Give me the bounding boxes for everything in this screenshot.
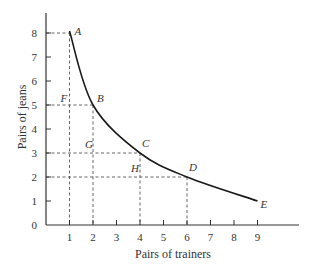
x-ticks: 123456789 <box>67 220 261 243</box>
y-tick-label: 1 <box>32 195 38 207</box>
y-tick-label: 4 <box>32 123 38 135</box>
point-label-b: B <box>97 92 104 104</box>
dashed-guide-lines <box>46 33 187 225</box>
y-tick-label: 7 <box>32 51 38 63</box>
point-label-a: A <box>74 25 82 37</box>
x-tick-label: 6 <box>184 231 190 243</box>
y-axis-label: Pairs of jeans <box>15 84 29 149</box>
y-tick-label: 5 <box>32 99 38 111</box>
x-tick-label: 3 <box>114 231 120 243</box>
x-tick-label: 4 <box>137 231 143 243</box>
annotation-label-f: F <box>60 92 68 104</box>
y-tick-label: 2 <box>32 171 38 183</box>
x-tick-label: 8 <box>231 231 237 243</box>
x-axis-label: Pairs of trainers <box>135 247 211 261</box>
y-ticks: 012345678 <box>32 27 52 231</box>
annotation-label-h: H <box>130 162 140 174</box>
point-label-d: D <box>188 161 197 173</box>
point-label-e: E <box>260 198 268 210</box>
y-tick-label: 8 <box>32 27 38 39</box>
x-tick-label: 5 <box>161 231 167 243</box>
axes <box>46 13 299 225</box>
y-tick-label: 0 <box>32 219 38 231</box>
x-tick-label: 9 <box>255 231 261 243</box>
annotation-label-g: G <box>85 138 93 150</box>
indifference-curve-chart: 123456789 012345678 ABCDEFGH Pairs of tr… <box>0 0 316 272</box>
point-labels: ABCDEFGH <box>60 25 268 210</box>
y-tick-label: 6 <box>32 75 38 87</box>
indifference-curve <box>70 31 258 201</box>
x-tick-label: 7 <box>208 231 214 243</box>
x-tick-label: 1 <box>67 231 73 243</box>
point-label-c: C <box>142 137 150 149</box>
y-tick-label: 3 <box>32 147 38 159</box>
x-tick-label: 2 <box>90 231 96 243</box>
